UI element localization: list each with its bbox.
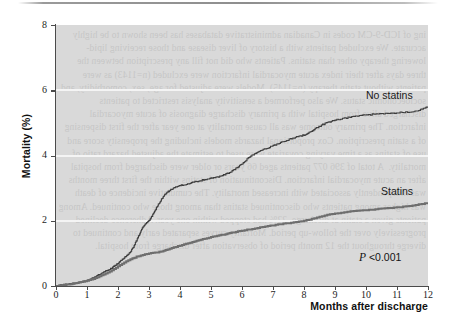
series-curves	[56, 25, 428, 286]
y-tick-4	[51, 156, 55, 157]
y-tick-label-2: 2	[33, 214, 47, 225]
p-value-annotation: P <0.001	[359, 251, 401, 263]
x-tick-label-8: 8	[292, 289, 316, 300]
series-label-statins: Statins	[381, 185, 413, 197]
x-tick-label-11: 11	[385, 289, 409, 300]
y-tick-2	[51, 221, 55, 222]
x-tick-label-0: 0	[44, 289, 68, 300]
p-value-symbol: P	[359, 251, 366, 263]
y-axis-title: Mortality (%)	[20, 91, 32, 201]
curve-statins	[56, 203, 428, 286]
series-label-no-statins: No statins	[366, 89, 413, 101]
x-tick-label-3: 3	[137, 289, 161, 300]
mortality-survival-chart: ing of ICD-9-CM codes in Canadian admini…	[0, 0, 450, 324]
x-tick-label-4: 4	[168, 289, 192, 300]
y-tick-8	[51, 25, 55, 26]
plot-area: ing of ICD-9-CM codes in Canadian admini…	[56, 25, 428, 286]
x-tick-label-2: 2	[106, 289, 130, 300]
x-axis-title: Months after discharge	[288, 300, 428, 312]
y-tick-label-8: 8	[33, 19, 47, 30]
x-tick-label-7: 7	[261, 289, 285, 300]
x-tick-label-9: 9	[323, 289, 347, 300]
x-tick-label-10: 10	[354, 289, 378, 300]
y-tick-label-4: 4	[33, 149, 47, 160]
x-tick-label-5: 5	[199, 289, 223, 300]
x-tick-label-6: 6	[230, 289, 254, 300]
p-value-text: <0.001	[366, 251, 401, 263]
y-tick-0	[51, 286, 55, 287]
y-axis-line	[55, 24, 56, 287]
y-tick-6	[51, 90, 55, 91]
x-tick-label-1: 1	[75, 289, 99, 300]
y-tick-label-6: 6	[33, 84, 47, 95]
x-tick-label-12: 12	[416, 289, 440, 300]
